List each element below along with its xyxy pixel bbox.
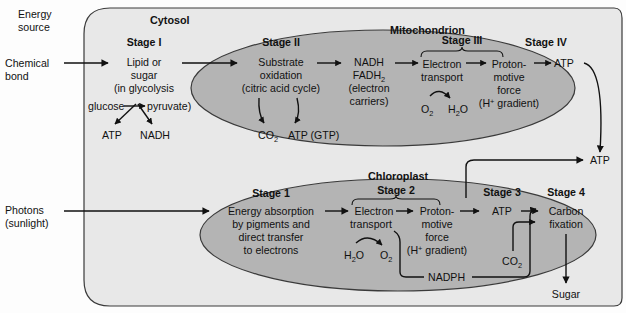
photo-stage-3-product-atp: ATP [492, 205, 512, 217]
stage-2-heading: Stage II [262, 36, 300, 48]
photons-line-1: Photons [5, 204, 44, 216]
glucose-label: glucose [88, 100, 125, 112]
pyruvate-label: pyruvate) [147, 100, 191, 112]
photo-stage-2-nadph: NADPH [428, 271, 465, 283]
photo-stage-4-line-2: fixation [549, 218, 583, 230]
photo-stage-1-line-3: direct transfer [239, 231, 304, 243]
photo-stage-1-heading: Stage 1 [252, 187, 290, 199]
photo-stage-1-line-2: by pigments and [232, 218, 310, 230]
stage-1-product-nadh: NADH [140, 129, 170, 141]
electron-carriers-group: NADH FADH2 (electron carriers) [348, 56, 389, 107]
stage-2-output-atp-gtp: ATP (GTP) [288, 129, 339, 141]
cytosol-atp-output: ATP [590, 154, 610, 166]
stage-1-line-2: sugar [131, 69, 158, 81]
stage-3-transport-line-1: Electron [423, 58, 462, 70]
energy-source-label: Energy source [18, 8, 52, 33]
photo-stage-1-line-1: Energy absorption [228, 205, 314, 217]
chemical-bond-line-1: Chemical [5, 57, 49, 69]
chemical-bond-line-2: bond [5, 70, 29, 82]
photo-stage-2-pmf-line-3: force [425, 231, 449, 243]
stage-1-heading: Stage I [127, 36, 162, 48]
stage-3-pmf-line-4: (H+ gradient) [479, 97, 539, 109]
photo-stage-3-heading: Stage 3 [483, 186, 521, 198]
photo-stage-2-pmf-line-2: motive [421, 218, 452, 230]
photo-stage-2-heading: Stage 2 [377, 184, 415, 196]
cytosol-label: Cytosol [150, 14, 190, 26]
carriers-line-3: (electron [348, 82, 389, 94]
photo-stage-2-pmf-line-4: (H+ gradient) [407, 244, 467, 256]
stage-1-product-atp: ATP [102, 129, 122, 141]
chemical-bond-label: Chemical bond [5, 57, 49, 82]
photo-stage-2-transport-line-1: Electron [355, 205, 394, 217]
energy-source-line-1: Energy [18, 8, 52, 20]
carriers-line-4: carriers) [350, 95, 389, 107]
photons-label: Photons (sunlight) [5, 204, 49, 229]
photo-stage-2-pmf-line-1: Proton- [420, 205, 455, 217]
stage-1-line-1: Lipid or [127, 56, 162, 68]
stage-3-pmf-line-3: force [497, 84, 521, 96]
stage-4-heading: Stage IV [525, 36, 567, 48]
photo-stage-2-transport-line-2: transport [350, 218, 392, 230]
carriers-line-1: NADH [354, 56, 384, 68]
stage-3-heading: Stage III [442, 34, 483, 46]
photons-line-2: (sunlight) [5, 217, 49, 229]
figure-canvas: ULAR ETICS Cytosol Mitochondrion Chlorop… [0, 0, 626, 313]
photo-stage-4-line-1: Carbon [549, 205, 584, 217]
stage-2-line-1: Substrate [258, 56, 303, 68]
stage-3-pmf-line-2: motive [493, 71, 524, 83]
pathway-diagram: ULAR ETICS Cytosol Mitochondrion Chlorop… [0, 0, 626, 313]
stage-2-line-3: (citric acid cycle) [242, 82, 320, 94]
stage-3-transport-line-2: transport [421, 71, 463, 83]
stage-2-line-2: oxidation [260, 69, 303, 81]
photo-stage-4-heading: Stage 4 [547, 186, 585, 198]
energy-source-line-2: source [18, 21, 50, 33]
stage-4-product-atp: ATP [554, 57, 574, 69]
chloroplast-label: Chloroplast [368, 170, 428, 182]
stage-3-pmf-line-1: Proton- [492, 58, 527, 70]
photo-stage-1-line-4: to electrons [244, 244, 299, 256]
stage-1-line-3: (in glycolysis [114, 82, 174, 94]
photo-stage-4-output-sugar: Sugar [552, 288, 581, 300]
